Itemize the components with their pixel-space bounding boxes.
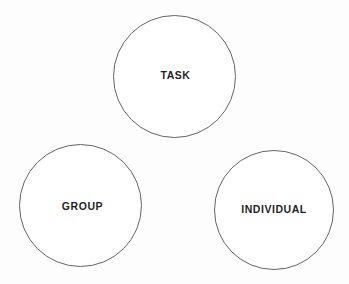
circle-label-group: GROUP xyxy=(62,201,103,212)
diagram-canvas: TASK GROUP INDIVIDUAL xyxy=(0,0,349,284)
circle-node-task[interactable]: TASK xyxy=(113,15,236,138)
circle-node-individual[interactable]: INDIVIDUAL xyxy=(214,150,334,270)
circle-label-task: TASK xyxy=(160,70,190,81)
circle-node-group[interactable]: GROUP xyxy=(19,144,142,267)
circle-label-individual: INDIVIDUAL xyxy=(241,204,307,215)
